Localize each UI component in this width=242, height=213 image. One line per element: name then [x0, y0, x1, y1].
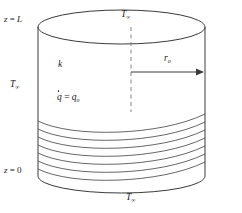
radius-arrow — [131, 69, 204, 76]
coil-turn — [38, 130, 205, 148]
z-top-eq: = — [8, 14, 18, 24]
coil-turn — [38, 162, 205, 180]
label-radius: ro — [164, 54, 171, 65]
label-z-equals-L: z = L — [4, 15, 22, 24]
coil-turn — [38, 114, 205, 132]
t-top-subscript: ∞ — [126, 14, 130, 20]
coil-turn — [38, 146, 205, 164]
z-bottom-eq: = — [8, 165, 18, 175]
label-t-infinity-bottom: T∞ — [126, 193, 136, 204]
label-t-infinity-left: T∞ — [10, 80, 20, 91]
helical-coil — [38, 114, 205, 180]
label-heat-generation: q = qo — [57, 93, 80, 104]
diagram-canvas — [0, 0, 242, 213]
t-left-subscript: ∞ — [15, 84, 19, 90]
coil-turn — [38, 122, 205, 140]
generation-symbol: q — [57, 92, 62, 102]
coil-turn — [38, 154, 205, 172]
generation-eq: = — [62, 92, 72, 102]
cylinder-bottom-arc — [38, 176, 205, 193]
coil-turn — [38, 138, 205, 156]
label-thermal-conductivity: k — [58, 60, 62, 70]
z-top-value: L — [17, 14, 22, 24]
z-bottom-value: 0 — [17, 165, 22, 175]
q-dot-group: q — [57, 93, 62, 103]
label-t-infinity-top: T∞ — [121, 10, 131, 21]
label-z-equals-0: z = 0 — [4, 166, 22, 175]
radius-arrow-head — [196, 69, 204, 76]
radius-subscript: o — [168, 58, 171, 64]
generation-value-subscript: o — [77, 97, 80, 103]
cylinder-heat-transfer-figure: z = L T∞ T∞ k q = qo ro z = 0 T∞ — [0, 0, 242, 213]
t-bottom-subscript: ∞ — [131, 197, 135, 203]
conductivity-symbol: k — [58, 59, 62, 69]
